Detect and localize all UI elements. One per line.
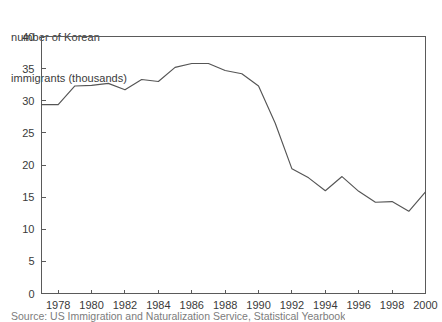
y-tick-label: 0 <box>28 288 34 300</box>
x-tick-label: 1986 <box>180 299 204 311</box>
x-tick-label: 1992 <box>280 299 304 311</box>
data-series-line <box>42 63 426 211</box>
y-tick-label: 20 <box>22 159 34 171</box>
x-tick-label: 1988 <box>213 299 237 311</box>
x-tick-label: 1984 <box>146 299 170 311</box>
x-tick-label: 1982 <box>113 299 137 311</box>
y-tick-label: 25 <box>22 127 34 139</box>
y-axis-tick-labels: 0510152025303540 <box>22 31 34 300</box>
x-axis-tick-labels: 1978198019821984198619881990199219941996… <box>46 299 438 311</box>
y-tick-label: 30 <box>22 95 34 107</box>
axis-frame <box>42 37 426 294</box>
y-tick-label: 10 <box>22 223 34 235</box>
x-tick-label: 1998 <box>380 299 404 311</box>
y-tick-label: 35 <box>22 63 34 75</box>
y-tick-label: 5 <box>28 255 34 267</box>
y-tick-label: 40 <box>22 31 34 43</box>
x-tick-label: 1978 <box>46 299 70 311</box>
x-tick-label: 1990 <box>246 299 270 311</box>
x-axis-tick-marks <box>58 290 425 294</box>
source-caption: Source: US Immigration and Naturalizatio… <box>11 310 345 322</box>
y-axis-tick-marks <box>42 37 46 294</box>
x-tick-label: 2000 <box>413 299 437 311</box>
x-tick-label: 1994 <box>313 299 337 311</box>
x-tick-label: 1996 <box>346 299 370 311</box>
x-tick-label: 1980 <box>79 299 103 311</box>
y-tick-label: 15 <box>22 191 34 203</box>
